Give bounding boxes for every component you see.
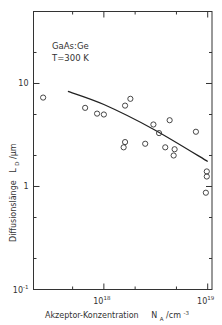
x-tick-label-exp: 18 bbox=[103, 295, 110, 301]
data-point bbox=[204, 169, 209, 174]
data-point bbox=[193, 129, 198, 134]
data-point bbox=[151, 122, 156, 127]
x-tick-label-base: 10 bbox=[93, 297, 103, 306]
x-tick-label: 1019 bbox=[197, 295, 215, 306]
data-point bbox=[83, 105, 88, 110]
x-axis-symbol-sub: A bbox=[160, 316, 164, 322]
y-axis-title-text: Diffusionslänge bbox=[9, 180, 18, 242]
fit-curve bbox=[68, 91, 208, 161]
y-tick-label-exp: -1 bbox=[23, 284, 28, 290]
data-point bbox=[171, 153, 176, 158]
y-axis-unit: /μm bbox=[9, 143, 18, 159]
data-point bbox=[167, 118, 172, 123]
data-point bbox=[163, 145, 168, 150]
y-tick-label-base: 10 bbox=[18, 79, 28, 88]
data-point bbox=[94, 111, 99, 116]
y-axis-title: Diffusionslänge L D /μm bbox=[9, 143, 21, 242]
data-point bbox=[172, 147, 177, 152]
data-point bbox=[143, 141, 148, 146]
y-tick-label-base: 1 bbox=[23, 182, 28, 191]
x-axis-title-text: Akzeptor-Konzentration bbox=[45, 311, 139, 320]
x-tick-label-base: 10 bbox=[197, 297, 207, 306]
x-tick-label: 1018 bbox=[93, 295, 111, 306]
fit-curve-line bbox=[68, 91, 208, 161]
data-point bbox=[122, 139, 127, 144]
data-point bbox=[128, 96, 133, 101]
annotation-temperature: T=300 K bbox=[51, 53, 89, 63]
x-axis-title: Akzeptor-Konzentration N A /cm -3 bbox=[45, 310, 189, 323]
x-tick-labels: 10181019 bbox=[93, 295, 215, 306]
y-tick-label: 10-1 bbox=[13, 284, 29, 295]
y-tick-label: 10 bbox=[18, 79, 28, 88]
data-point bbox=[101, 112, 106, 117]
y-tick-label-base: 10 bbox=[13, 286, 23, 295]
annotation-material: GaAs:Ge bbox=[52, 41, 89, 51]
x-tick-label-exp: 19 bbox=[207, 295, 214, 301]
chart: GaAs:Ge T=300 K 10-1110 10181019 Diffusi… bbox=[0, 0, 222, 325]
x-axis-unit-sup: -3 bbox=[183, 310, 189, 316]
data-point bbox=[122, 103, 127, 108]
data-point bbox=[203, 190, 208, 195]
x-axis-symbol: N bbox=[151, 311, 157, 320]
data-point bbox=[121, 145, 126, 150]
x-axis-unit: /cm bbox=[166, 311, 181, 320]
y-axis-symbol: L bbox=[9, 168, 18, 173]
y-axis-symbol-sub: D bbox=[14, 162, 20, 166]
data-point bbox=[41, 95, 46, 100]
data-point bbox=[204, 174, 209, 179]
y-tick-label: 1 bbox=[23, 182, 28, 191]
data-points bbox=[41, 95, 210, 195]
